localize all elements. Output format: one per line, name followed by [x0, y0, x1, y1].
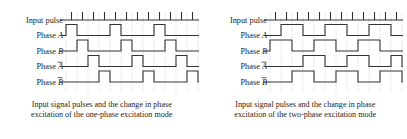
row-label-phase-a: Phase A [240, 31, 267, 40]
waveform-phase-b-bar [60, 71, 199, 82]
row-labels-two-phase: Input pulsePhase APhase BPhase APhase B [229, 16, 267, 87]
timing-chart-one-phase: Input pulsePhase APhase BPhase APhase B [0, 0, 204, 100]
waveform-phase-a-bar [60, 56, 199, 67]
row-label-phase-b: Phase B [36, 47, 63, 56]
caption-line-1: Input signal pulses and the change in ph… [4, 100, 200, 110]
row-label-phase-a-bar: Phase A [36, 62, 63, 71]
row-labels-one-phase: Input pulsePhase APhase BPhase APhase B [26, 16, 64, 87]
gridlines-one-phase [66, 14, 198, 92]
timing-area-one-phase: Input pulsePhase APhase BPhase APhase B [0, 0, 204, 100]
row-label-input-pulse: Input pulse [26, 16, 63, 25]
waveform-phase-b [60, 40, 199, 51]
caption-two-phase: Input signal pulses and the change in ph… [204, 100, 407, 120]
caption-line-1: Input signal pulses and the change in ph… [208, 100, 404, 110]
row-label-phase-b: Phase B [240, 47, 267, 56]
row-label-input-pulse: Input pulse [229, 16, 266, 25]
row-label-phase-a-bar: Phase A [240, 62, 267, 71]
waveforms-one-phase [60, 12, 199, 82]
caption-line-2: excitation of the two-phase excitation m… [208, 110, 404, 120]
caption-one-phase: Input signal pulses and the change in ph… [0, 100, 204, 120]
waveform-phase-b [264, 40, 403, 51]
row-label-phase-b-bar: Phase B [36, 78, 63, 87]
waveform-phase-a [60, 25, 199, 36]
waveform-phase-b-bar [264, 71, 403, 82]
row-label-phase-b-bar: Phase B [240, 78, 267, 87]
panel-two-phase: Input pulsePhase APhase BPhase APhase B … [204, 0, 407, 139]
caption-line-2: excitation of the one-phase excitation m… [4, 110, 200, 120]
timing-chart-two-phase: Input pulsePhase APhase BPhase APhase B [204, 0, 407, 100]
timing-area-two-phase: Input pulsePhase APhase BPhase APhase B [204, 0, 407, 100]
panel-one-phase: Input pulsePhase APhase BPhase APhase B … [0, 0, 204, 139]
row-label-phase-a: Phase A [36, 31, 63, 40]
waveforms-two-phase [264, 12, 403, 82]
timing-diagram-figure: Input pulsePhase APhase BPhase APhase B … [0, 0, 407, 139]
waveform-phase-a-bar [264, 56, 403, 67]
waveform-phase-a [264, 25, 403, 36]
